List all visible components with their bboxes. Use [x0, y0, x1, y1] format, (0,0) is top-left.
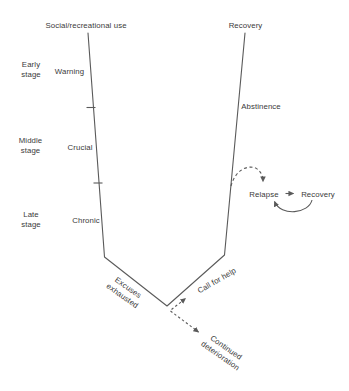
jellinek-addiction-recovery-curve: Social/recreational use Recovery Early s… [0, 0, 349, 391]
title-recovery: Recovery [229, 21, 263, 31]
continued-deterioration-arrow [171, 311, 199, 332]
recovery-to-relapse-loop-arrow [275, 200, 313, 212]
label-late-stage: Late stage [21, 210, 41, 230]
label-crucial: Crucial [68, 143, 93, 153]
label-chronic: Chronic [72, 216, 100, 226]
label-early-stage: Early stage [21, 60, 41, 80]
curve-canvas [0, 0, 349, 391]
label-relapse: Relapse [249, 190, 278, 200]
addiction-curve-line [88, 33, 245, 306]
label-abstinence: Abstinence [241, 102, 281, 112]
label-middle-stage: Middle stage [19, 136, 43, 156]
label-warning: Warning [55, 67, 84, 77]
relapse-entry-arrow [231, 167, 263, 186]
title-social-recreational-use: Social/recreational use [45, 21, 126, 31]
label-recovery-cycle: Recovery [301, 190, 335, 200]
